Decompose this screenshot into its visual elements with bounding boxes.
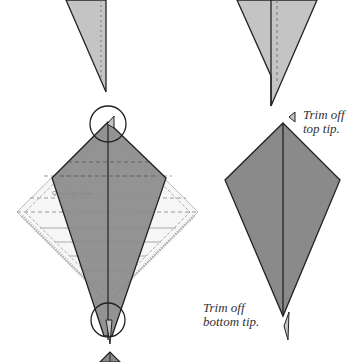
trim-bottom-line2: bottom tip. [203,315,259,329]
trimmed-bottom-tip [284,312,289,340]
trim-top-label: Trim off top tip. [303,108,345,136]
top-right-strip [237,0,317,106]
trim-top-line2: top tip. [303,122,345,136]
right-kite [225,123,340,316]
diagram: Quick Qtr Ruler [0,0,362,362]
trim-bottom-line1: Trim off [203,301,259,315]
bottom-partial-kite [100,352,120,362]
trim-top-line1: Trim off [303,108,345,122]
top-left-strip [66,0,106,92]
left-kite [52,116,166,344]
trim-bottom-label: Trim off bottom tip. [203,301,259,329]
trimmed-top-tip [289,112,295,122]
